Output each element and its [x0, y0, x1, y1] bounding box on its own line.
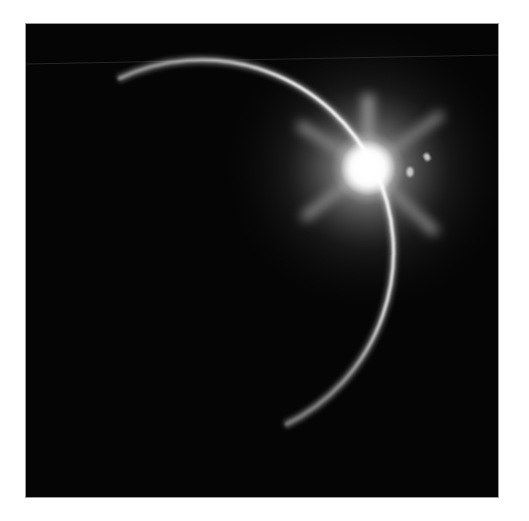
eclipse-photo [26, 24, 498, 497]
eclipse-illustration [26, 24, 498, 497]
sun-core [340, 140, 396, 196]
lens-flare-spot [407, 167, 414, 177]
